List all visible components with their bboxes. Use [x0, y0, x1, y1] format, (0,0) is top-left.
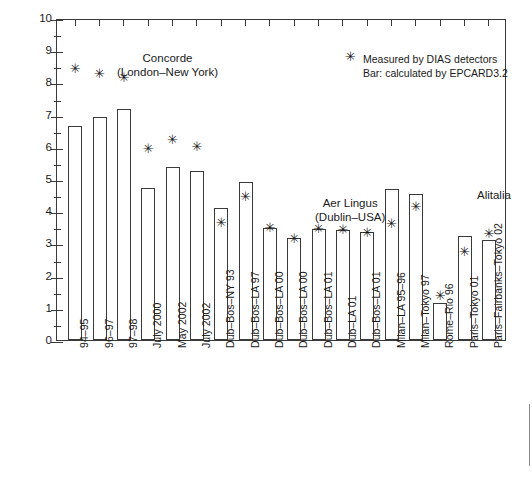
measured-marker-5: ✳: [191, 141, 202, 152]
x-axis-label: Dub–Bos–LA 00: [297, 271, 309, 348]
y-tick-label: 10: [39, 12, 52, 24]
measured-marker-16: ✳: [459, 246, 470, 257]
legend-label-bar: Bar: calculated by EPCARD3.2: [363, 67, 508, 79]
x-axis-label: Dub–Bos–LA 01: [370, 271, 382, 348]
legend-item-bar: Bar: calculated by EPCARD3.2: [345, 66, 508, 80]
bar-2: [117, 109, 131, 340]
edge-rule: [529, 404, 530, 466]
x-tick-top: [440, 20, 441, 26]
x-axis-label: July 2002: [200, 303, 212, 348]
y-tick-label: 1: [46, 302, 52, 314]
x-axis-label: Rome–Rio 96: [443, 283, 455, 348]
x-tick-top: [99, 20, 100, 26]
x-tick-top: [342, 20, 343, 26]
y-tick-label: 9: [46, 44, 52, 56]
x-axis-label: Dub–Bos–LA 00: [273, 271, 285, 348]
x-axis-label: Milan–Tokyo 97: [419, 274, 431, 348]
x-axis-label: 97–98: [127, 319, 139, 348]
x-tick-top: [196, 20, 197, 26]
y-tick-label: 3: [46, 237, 52, 249]
x-tick-top: [415, 20, 416, 26]
x-tick-top: [148, 20, 149, 26]
x-tick-top: [367, 20, 368, 26]
x-axis-label: 96–97: [103, 319, 115, 348]
x-axis-label: Paris–Fairbanks–Tokyo 02: [492, 223, 504, 348]
y-tick-label: 2: [46, 270, 52, 282]
y-tick-label: 4: [46, 205, 52, 217]
x-axis-label: Dub–Bos–NY 93: [224, 269, 236, 348]
measured-marker-6: ✳: [216, 217, 227, 228]
legend-label-measured: Measured by DIAS detectors: [363, 53, 497, 65]
x-axis-label: Dub–LA 01: [346, 296, 358, 348]
x-tick-top: [75, 20, 76, 26]
x-tick-top: [123, 20, 124, 26]
annotation-2: Alitalia: [477, 188, 511, 202]
legend-item-measured: ✳ Measured by DIAS detectors: [345, 52, 508, 66]
measured-marker-14: ✳: [410, 201, 421, 212]
x-tick-top: [294, 20, 295, 26]
x-axis-label: Paris–Tokyo 01: [468, 276, 480, 349]
y-tick-label: 8: [46, 76, 52, 88]
annotation-0: Concorde (London–New York): [117, 51, 218, 79]
x-tick-top: [245, 20, 246, 26]
measured-marker-13: ✳: [386, 218, 397, 229]
x-tick-top: [464, 20, 465, 26]
y-tick-label: 6: [46, 141, 52, 153]
y-tick-label: 0: [46, 334, 52, 346]
measured-marker-7: ✳: [240, 191, 251, 202]
measured-marker-0: ✳: [70, 63, 81, 74]
x-tick-top: [172, 20, 173, 26]
measured-marker-4: ✳: [167, 134, 178, 145]
bar-0: [68, 126, 82, 340]
measured-marker-11: ✳: [337, 224, 348, 235]
measured-marker-1: ✳: [94, 68, 105, 79]
measured-marker-3: ✳: [143, 143, 154, 154]
measured-marker-9: ✳: [289, 233, 300, 244]
y-tick-label: 7: [46, 109, 52, 121]
annotation-1: Aer Lingus (Dublin–USA): [315, 196, 385, 224]
x-tick-top: [391, 20, 392, 26]
measured-marker-10: ✳: [313, 223, 324, 234]
x-tick-top: [269, 20, 270, 26]
measured-marker-8: ✳: [264, 222, 275, 233]
dose-equivalent-bar-chart: Dose equivalent (μSv/h) 012345678910 ✳✳✳…: [0, 0, 532, 478]
x-axis-label: Dub–Bos–LA 97: [249, 271, 261, 348]
x-axis-label: Dub–Bos–LA 01: [322, 271, 334, 348]
chart-legend: ✳ Measured by DIAS detectors Bar: calcul…: [345, 52, 508, 80]
x-axis-label: 94–95: [78, 319, 90, 348]
bar-1: [93, 117, 107, 340]
y-tick-label: 5: [46, 173, 52, 185]
measured-marker-12: ✳: [362, 227, 373, 238]
x-tick-top: [488, 20, 489, 26]
x-tick-top: [318, 20, 319, 26]
x-tick-top: [221, 20, 222, 26]
x-axis-label: Milan–LA 95–96: [395, 272, 407, 348]
asterisk-marker-icon: ✳: [345, 50, 356, 64]
x-axis-label: July 2000: [151, 303, 163, 348]
x-axis-label: May 2002: [176, 301, 188, 348]
